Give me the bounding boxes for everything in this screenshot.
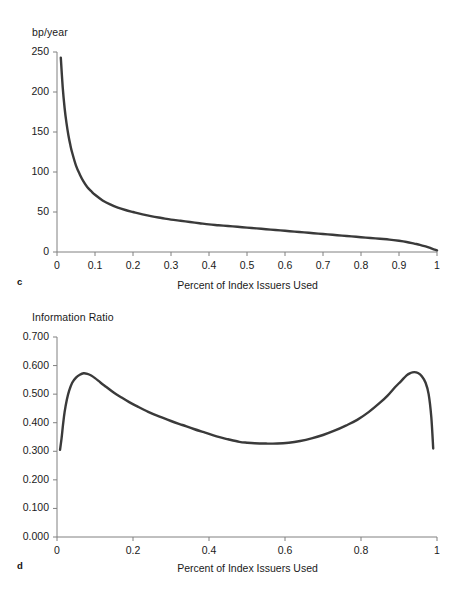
x-tick-label: 0.6 <box>265 259 305 271</box>
y-tick-label: 200 <box>3 85 49 97</box>
x-tick-label: 0 <box>37 259 77 271</box>
x-tick-label: 0.7 <box>303 259 343 271</box>
y-tick-label: 0.500 <box>3 387 49 399</box>
panel-c-plot-area <box>0 0 461 300</box>
x-tick-label: 0.5 <box>227 259 267 271</box>
x-tick-label: 0.2 <box>113 259 153 271</box>
y-tick-label: 0.700 <box>3 330 49 342</box>
x-tick-label: 1 <box>417 259 457 271</box>
y-tick-label: 100 <box>3 165 49 177</box>
x-tick-label: 0.3 <box>151 259 191 271</box>
y-tick-label: 50 <box>3 205 49 217</box>
y-tick-label: 150 <box>3 125 49 137</box>
x-tick-label: 0 <box>37 544 77 556</box>
y-tick-label: 0.300 <box>3 444 49 456</box>
x-tick-label: 0.6 <box>265 544 305 556</box>
x-tick-label: 0.1 <box>75 259 115 271</box>
x-tick-label: 0.9 <box>379 259 419 271</box>
x-tick-label: 0.8 <box>341 544 381 556</box>
series-line <box>61 58 437 251</box>
x-tick-label: 0.8 <box>341 259 381 271</box>
chart-panel-c: bp/year Percent of Index Issuers Used c … <box>0 0 461 300</box>
y-tick-label: 0.600 <box>3 359 49 371</box>
x-tick-label: 0.4 <box>189 544 229 556</box>
y-tick-label: 0.000 <box>3 530 49 542</box>
panel-d-letter: d <box>17 560 23 571</box>
y-tick-label: 0 <box>3 245 49 257</box>
y-tick-label: 0.200 <box>3 473 49 485</box>
y-tick-label: 250 <box>3 45 49 57</box>
y-tick-label: 0.400 <box>3 416 49 428</box>
chart-panel-d: Information Ratio Percent of Index Issue… <box>0 297 461 595</box>
y-tick-label: 0.100 <box>3 501 49 513</box>
x-tick-label: 0.4 <box>189 259 229 271</box>
series-line <box>60 372 433 450</box>
x-tick-label: 1 <box>417 544 457 556</box>
panel-c-letter: c <box>17 276 22 287</box>
panel-c-x-axis-title: Percent of Index Issuers Used <box>57 279 438 291</box>
panel-d-x-axis-title: Percent of Index Issuers Used <box>57 562 438 574</box>
x-tick-label: 0.2 <box>113 544 153 556</box>
